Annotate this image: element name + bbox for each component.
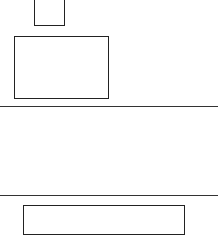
bottom-button-box[interactable] [23,205,185,235]
section-divider-bottom [0,195,218,196]
main-box[interactable] [14,36,109,99]
middle-section [0,107,218,195]
top-small-box[interactable] [34,0,65,26]
